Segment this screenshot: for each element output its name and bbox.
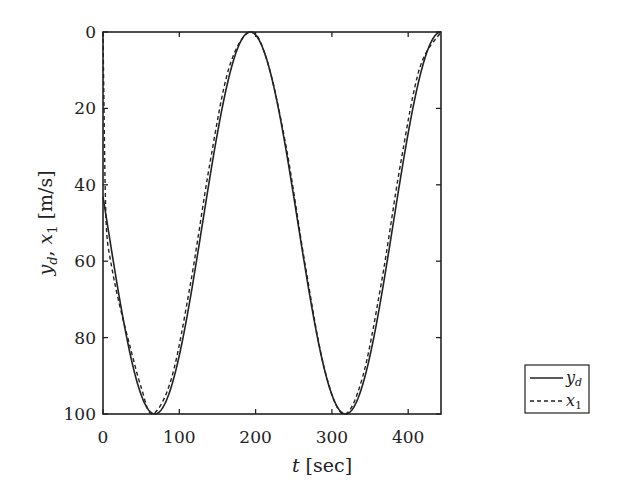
- x-tick-label: 0: [98, 427, 109, 447]
- y-tick-label: 80: [74, 328, 96, 348]
- y-tick-label: 20: [74, 98, 96, 118]
- x-tick-label: 100: [163, 427, 195, 447]
- y-tick-label: 60: [74, 251, 96, 271]
- chart: 0100200300400020406080100 t[sec] yd, x1[…: [0, 0, 627, 494]
- x-tick-label: 200: [239, 427, 271, 447]
- x-tick-label: 300: [316, 427, 348, 447]
- y-tick-label: 40: [74, 175, 96, 195]
- y-tick-label: 100: [64, 404, 96, 424]
- legend: yd x1: [525, 365, 589, 413]
- y-tick-label: 0: [85, 22, 96, 42]
- x-tick-label: 400: [392, 427, 424, 447]
